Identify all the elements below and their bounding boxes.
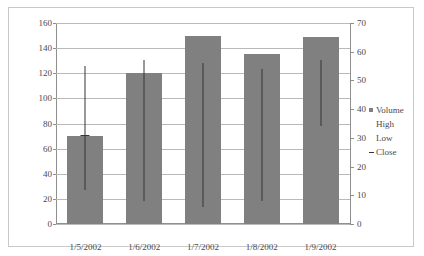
left-axis-tick-label: 60 [43,144,52,153]
left-axis-tick-label: 160 [39,19,53,28]
right-axis-tick-label: 30 [357,133,366,142]
right-axis-tick-label: 0 [357,220,362,229]
left-axis-tick-label: 140 [39,44,53,53]
legend-item[interactable]: Volume [369,103,424,117]
legend-label: Low [376,131,393,145]
left-axis-tick-mark [53,224,56,225]
high-low-line[interactable] [144,60,145,201]
right-axis-tick-label: 40 [357,105,366,114]
high-low-line[interactable] [320,60,321,126]
right-axis-tick-label: 70 [357,19,366,28]
legend-label: High [376,117,394,131]
category-label: 1/5/2002 [69,242,101,252]
left-axis-tick-label: 120 [39,69,53,78]
right-axis-tick-label: 10 [357,191,366,200]
right-axis-tick-mark [350,138,354,139]
legend-label: Close [376,145,397,159]
bar-group[interactable] [232,23,291,224]
gridline [56,224,350,225]
close-marker[interactable] [81,135,90,136]
legend-dash-icon [369,152,374,153]
left-axis-tick-label: 80 [43,119,52,128]
left-axis-tick-label: 20 [43,194,52,203]
left-axis-tick-label: 100 [39,94,53,103]
right-axis-tick-mark [350,80,354,81]
category-label: 1/8/2002 [246,242,278,252]
legend-blank-icon [369,122,373,126]
right-axis-tick-label: 50 [357,76,366,85]
bar-group[interactable] [174,23,233,224]
bar-group[interactable] [56,23,115,224]
legend-item[interactable]: Low [369,131,424,145]
category-label: 1/7/2002 [187,242,219,252]
left-axis-tick-label: 40 [43,169,52,178]
chart-legend: VolumeHighLowClose [369,103,424,159]
right-axis-tick-mark [350,109,354,110]
category-label: 1/6/2002 [128,242,160,252]
legend-item[interactable]: Close [369,145,424,159]
high-low-line[interactable] [261,69,262,201]
high-low-line[interactable] [202,63,203,207]
right-axis-tick-label: 20 [357,162,366,171]
right-axis-tick-label: 60 [357,47,366,56]
right-axis-line [350,23,351,224]
left-axis-tick-label: 0 [48,220,53,229]
right-axis-tick-mark [350,195,354,196]
right-axis-tick-mark [350,52,354,53]
right-axis-tick-mark [350,23,354,24]
plot-area: 020406080100120140160 010203040506070 1/… [56,23,350,224]
right-axis-tick-mark [350,167,354,168]
legend-label: Volume [376,103,404,117]
legend-item[interactable]: High [369,117,424,131]
category-label: 1/9/2002 [305,242,337,252]
legend-blank-icon [369,136,373,140]
bar-group[interactable] [291,23,350,224]
chart-frame: 020406080100120140160 010203040506070 1/… [8,7,414,247]
legend-square-icon [369,108,373,112]
right-axis-tick-mark [350,224,354,225]
high-low-line[interactable] [85,66,86,189]
bar-group[interactable] [115,23,174,224]
